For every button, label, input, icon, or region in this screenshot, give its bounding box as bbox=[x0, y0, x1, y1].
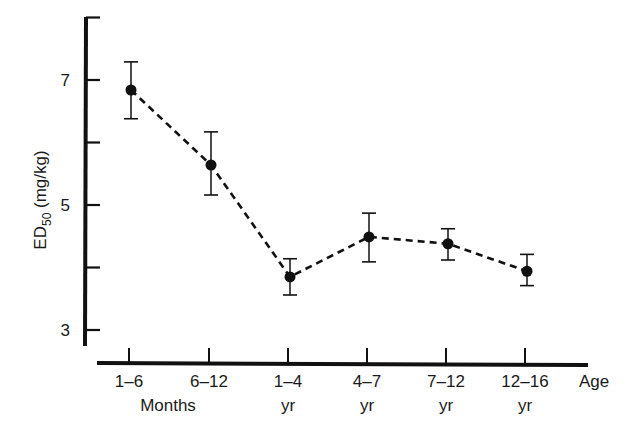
series-line bbox=[131, 90, 527, 277]
x-axis-title: Age bbox=[579, 372, 609, 391]
x-tick-label: 4–7 bbox=[353, 372, 381, 391]
x-tick-sublabel: Months bbox=[140, 396, 196, 415]
y-axis-title: ED50 (mg/kg) bbox=[31, 150, 54, 249]
x-tick-sublabel: yr bbox=[281, 396, 296, 415]
y-tick-label: 3 bbox=[61, 321, 70, 340]
y-axis-title-main: ED bbox=[31, 226, 50, 250]
data-point-marker bbox=[522, 266, 533, 277]
data-point-marker bbox=[443, 238, 454, 249]
x-axis: 1–6Months6–121–4yr4–7yr7–12yr12–16yr bbox=[97, 348, 588, 415]
data-point-marker bbox=[364, 231, 375, 242]
x-tick-label: 1–4 bbox=[274, 372, 302, 391]
x-axis-line bbox=[97, 363, 588, 365]
x-tick-sublabel: yr bbox=[360, 396, 375, 415]
y-axis-line bbox=[85, 17, 86, 346]
ed50-age-chart: 357 1–6Months6–121–4yr4–7yr7–12yr12–16yr… bbox=[0, 0, 636, 434]
data-series bbox=[124, 62, 534, 295]
x-tick-sublabel: yr bbox=[518, 396, 533, 415]
y-tick-label: 5 bbox=[61, 196, 70, 215]
x-tick-label: 12–16 bbox=[501, 372, 548, 391]
y-axis: 357 bbox=[61, 17, 100, 346]
data-point-marker bbox=[126, 85, 137, 96]
x-tick-label: 1–6 bbox=[115, 372, 143, 391]
data-point-marker bbox=[206, 160, 217, 171]
y-axis-title-unit: (mg/kg) bbox=[31, 150, 50, 212]
x-tick-label: 7–12 bbox=[427, 372, 465, 391]
x-tick-sublabel: yr bbox=[439, 396, 454, 415]
y-axis-title-subscript: 50 bbox=[40, 212, 54, 226]
y-tick-label: 7 bbox=[61, 71, 70, 90]
data-point-marker bbox=[285, 271, 296, 282]
x-tick-label: 6–12 bbox=[190, 372, 228, 391]
